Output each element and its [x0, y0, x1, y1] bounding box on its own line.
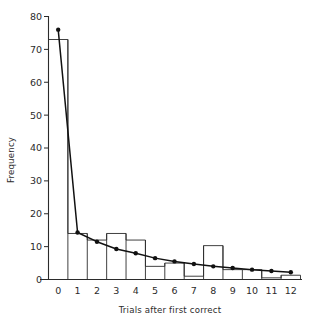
y-tick-label: 40 [30, 142, 42, 153]
y-tick-label: 60 [30, 77, 42, 88]
y-axis-label: Frequency [6, 137, 16, 183]
y-tick-label: 80 [30, 11, 42, 22]
data-point [56, 27, 60, 31]
data-point [250, 267, 254, 271]
x-tick-label: 7 [191, 285, 197, 296]
data-point [230, 266, 234, 270]
y-tick-label: 70 [30, 44, 42, 55]
y-tick-label: 20 [30, 208, 42, 219]
x-tick-label: 2 [94, 285, 100, 296]
y-tick-label: 50 [30, 110, 42, 121]
chart-canvas: Frequency 01020304050607080 012345678910… [0, 0, 318, 335]
data-point [172, 259, 176, 263]
data-point [192, 262, 196, 266]
y-axis-tick-labels: 01020304050607080 [30, 11, 42, 285]
y-tick-label: 30 [30, 175, 42, 186]
data-point [153, 256, 157, 260]
x-tick-label: 0 [55, 285, 61, 296]
x-tick-label: 6 [171, 285, 177, 296]
data-point [95, 239, 99, 243]
x-axis-label: Trials after first correct [118, 305, 222, 315]
data-point [289, 270, 293, 274]
x-axis-tick-labels: 0123456789101112 [55, 285, 297, 296]
histogram-bars [49, 40, 301, 280]
fitted-curve [58, 30, 291, 273]
x-tick-label: 8 [210, 285, 216, 296]
y-axis-tick-marks [44, 17, 49, 280]
x-tick-label: 10 [246, 285, 258, 296]
y-axis-label-group: Frequency [6, 137, 16, 183]
data-point [114, 247, 118, 251]
x-tick-label: 12 [285, 285, 297, 296]
x-tick-label: 1 [75, 285, 81, 296]
x-tick-label: 9 [230, 285, 236, 296]
data-point [269, 269, 273, 273]
x-tick-label: 4 [133, 285, 139, 296]
data-point [134, 251, 138, 255]
data-point [211, 264, 215, 268]
curve-path [58, 30, 291, 273]
x-tick-label: 5 [152, 285, 158, 296]
x-tick-label: 11 [265, 285, 277, 296]
y-tick-label: 10 [30, 241, 42, 252]
fitted-curve-points [56, 27, 293, 274]
data-point [75, 230, 79, 234]
bar-outline [49, 40, 301, 280]
figure-histogram-trials-after-first-correct: Frequency 01020304050607080 012345678910… [0, 0, 318, 335]
x-tick-label: 3 [113, 285, 119, 296]
